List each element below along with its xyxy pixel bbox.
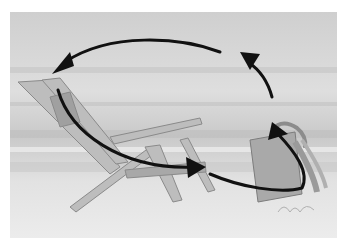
watercolor-painting — [10, 12, 337, 238]
